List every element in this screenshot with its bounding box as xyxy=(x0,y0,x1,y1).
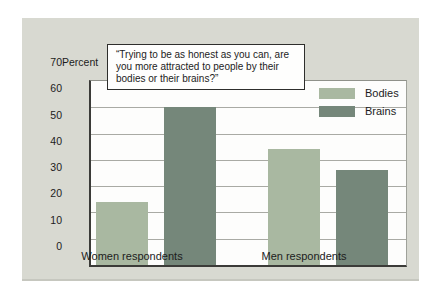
y-tick-label-70: 70 xyxy=(28,56,62,68)
gridline-40 xyxy=(91,160,406,161)
y-tick-label-40: 40 xyxy=(28,135,62,147)
legend-item-brains: Brains xyxy=(319,106,399,117)
legend-swatch-bodies xyxy=(319,88,355,99)
chart-panel: Percent “Trying to be as honest as you c… xyxy=(22,18,419,281)
bar-men-respondents-bodies xyxy=(268,149,320,265)
y-tick-label-20: 20 xyxy=(28,187,62,199)
x-label-men-respondents: Men respondents xyxy=(262,250,347,262)
bar-women-respondents-brains xyxy=(164,107,216,265)
y-tick-label-0: 0 xyxy=(28,240,62,252)
y-axis-title: Percent xyxy=(62,56,98,68)
figure: Percent “Trying to be as honest as you c… xyxy=(0,0,435,290)
legend: Bodies Brains xyxy=(319,88,399,124)
y-tick-label-50: 50 xyxy=(28,109,62,121)
gridline-50 xyxy=(91,134,406,135)
legend-label-bodies: Bodies xyxy=(365,88,399,99)
y-tick-label-60: 60 xyxy=(28,82,62,94)
x-label-women-respondents: Women respondents xyxy=(81,250,182,262)
legend-label-brains: Brains xyxy=(365,106,396,117)
legend-item-bodies: Bodies xyxy=(319,88,399,99)
question-text: “Trying to be as honest as you can, are … xyxy=(116,49,289,84)
y-tick-label-30: 30 xyxy=(28,161,62,173)
y-tick-label-10: 10 xyxy=(28,214,62,226)
legend-swatch-brains xyxy=(319,106,355,117)
question-callout: “Trying to be as honest as you can, are … xyxy=(107,44,305,90)
